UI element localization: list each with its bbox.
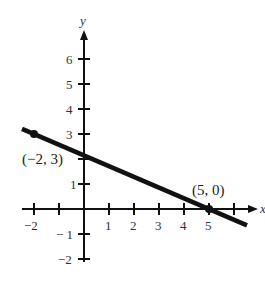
point-marker — [205, 205, 213, 213]
y-tick-label: 3 — [66, 127, 73, 142]
point-label-a: (−2, 3) — [22, 151, 63, 168]
x-tick-label: −2 — [24, 218, 38, 233]
y-axis-label: y — [78, 13, 86, 28]
y-axis-arrow-icon — [80, 30, 88, 40]
y-tick-label: 6 — [66, 52, 73, 67]
y-axis — [78, 30, 90, 262]
coordinate-plane: x −2 1 2 3 4 5 y 6 5 4 3 1 − 1 −2 (−2, 3… — [0, 0, 265, 282]
y-tick-label: 1 — [70, 177, 77, 192]
x-tick-label: 1 — [105, 218, 112, 233]
x-tick-label: 3 — [155, 218, 162, 233]
x-axis-arrow-icon — [248, 205, 258, 213]
point-marker — [30, 130, 38, 138]
y-tick-label: 4 — [66, 102, 73, 117]
y-tick-label: −2 — [58, 252, 72, 267]
y-tick-label: 5 — [66, 77, 73, 92]
x-axis-label: x — [259, 201, 265, 216]
y-tick-label: − 1 — [56, 227, 73, 242]
point-label-b: (5, 0) — [192, 182, 225, 199]
x-tick-label: 4 — [180, 218, 187, 233]
x-tick-label: 2 — [130, 218, 137, 233]
x-tick-label: 5 — [205, 218, 212, 233]
